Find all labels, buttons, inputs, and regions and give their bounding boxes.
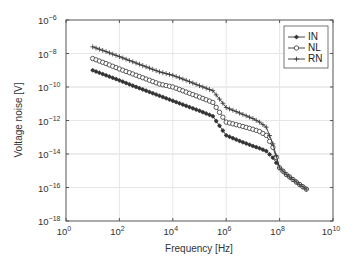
- legend-label-rn: RN: [308, 53, 322, 64]
- y-tick-label: 10−14: [38, 148, 61, 160]
- series-line: [93, 59, 307, 190]
- y-tick-label: 10−6: [38, 14, 57, 26]
- legend-label-nl: NL: [308, 42, 321, 53]
- x-tick-label: 1010: [322, 225, 340, 237]
- y-tick-label: 10−8: [38, 48, 57, 60]
- series-markers: [90, 44, 308, 191]
- y-tick-label: 10−10: [38, 81, 61, 93]
- series-nl: [91, 56, 309, 191]
- series-line: [93, 47, 307, 189]
- series-line: [93, 70, 307, 189]
- legend-label-in: IN: [308, 31, 318, 42]
- y-tick-label: 10−12: [38, 115, 61, 127]
- series-layer: [90, 44, 308, 191]
- x-tick-label: 104: [164, 225, 179, 237]
- x-tick-label: 108: [270, 225, 285, 237]
- x-tick-label: 100: [57, 225, 72, 237]
- x-axis-title: Frequency [Hz]: [165, 243, 233, 254]
- series-markers: [91, 56, 309, 191]
- legend: IN NL RN: [284, 26, 328, 68]
- series-rn: [90, 44, 308, 191]
- x-tick-label: 106: [217, 225, 232, 237]
- x-tick-label: 102: [110, 225, 125, 237]
- y-axis-title: Voltage noise [V]: [13, 82, 24, 157]
- noise-chart: 1001021041061081010 10−610−810−1010−1210…: [0, 0, 359, 270]
- y-tick-label: 10−16: [38, 182, 61, 194]
